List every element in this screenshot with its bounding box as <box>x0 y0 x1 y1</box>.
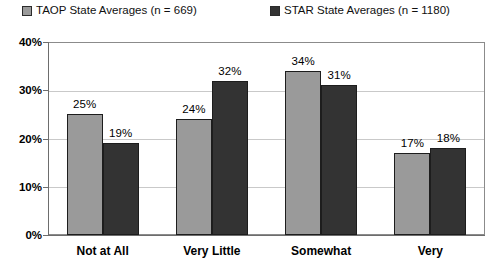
bar <box>285 71 321 235</box>
bar-value-label: 31% <box>315 69 363 82</box>
x-axis-line <box>48 235 485 236</box>
legend-entry-taop: TAOP State Averages (n = 669) <box>22 4 197 17</box>
legend-entry-star: STAR State Averages (n = 1180) <box>270 4 450 17</box>
legend-label-taop: TAOP State Averages (n = 669) <box>36 4 197 17</box>
x-axis-tick-label: Somewhat <box>267 244 376 258</box>
x-axis-tick-label: Not at All <box>48 244 157 258</box>
chart-legend: TAOP State Averages (n = 669) STAR State… <box>0 4 501 26</box>
y-axis-tick-label: 10% <box>2 181 42 193</box>
bar-value-label: 25% <box>61 98 109 111</box>
bar <box>394 153 430 235</box>
bar-value-label: 18% <box>424 132 472 145</box>
bar-value-label: 32% <box>206 65 254 78</box>
legend-swatch-star <box>270 6 280 16</box>
y-axis-tick-label: 30% <box>2 84 42 96</box>
y-axis-tick-label: 40% <box>2 36 42 48</box>
bars-layer: 25%19%24%32%34%31%17%18% <box>48 42 485 235</box>
bar <box>321 85 357 235</box>
y-axis-tick-label: 0% <box>2 229 42 241</box>
bar <box>430 148 466 235</box>
legend-label-star: STAR State Averages (n = 1180) <box>284 4 450 17</box>
bar-value-label: 19% <box>97 127 145 140</box>
bar <box>103 143 139 235</box>
legend-swatch-taop <box>22 6 32 16</box>
x-axis-tick-label: Very Little <box>157 244 266 258</box>
x-axis-tick-label: Very <box>376 244 485 258</box>
bar-chart: TAOP State Averages (n = 669) STAR State… <box>0 0 501 273</box>
y-axis-tick-label: 20% <box>2 133 42 145</box>
bar-value-label: 24% <box>170 103 218 116</box>
bar <box>176 119 212 235</box>
bar-value-label: 34% <box>279 55 327 68</box>
bar <box>212 81 248 235</box>
